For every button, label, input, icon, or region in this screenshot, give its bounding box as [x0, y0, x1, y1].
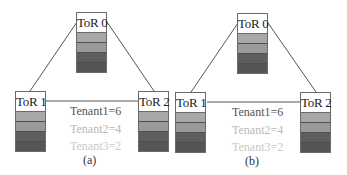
- tenant-stripe: [238, 44, 267, 54]
- tenant-stripe: [16, 132, 45, 142]
- tenant1-label: Tenant1=6: [232, 105, 283, 120]
- tenant-stripe: [176, 123, 205, 133]
- tenant-stripe: [301, 143, 330, 152]
- tenant-stripe: [16, 122, 45, 132]
- tenant-stripe: [301, 123, 330, 133]
- tenant-stripe: [238, 54, 267, 64]
- tenant-stripe: [176, 113, 205, 123]
- tenant-stripe: [176, 143, 205, 152]
- tenant2-label: Tenant2=4: [70, 122, 121, 137]
- panel-caption: (a): [83, 153, 96, 168]
- tor-label: ToR 1: [176, 93, 205, 113]
- tenant-stripe: [301, 133, 330, 143]
- tenant-stripe: [238, 64, 267, 73]
- tenant-stripe: [77, 63, 106, 72]
- tenant-stripe: [238, 34, 267, 44]
- tenant-stripe: [77, 43, 106, 53]
- diagram-panel-b: ToR 0 ToR 1 ToR 2 Tenant1=6 Tenant2=4 Te…: [160, 0, 347, 175]
- tenant-stripe: [77, 33, 106, 43]
- tor-0-switch: ToR 0: [237, 13, 268, 74]
- tenant-stripe: [77, 53, 106, 63]
- tor-2-switch: ToR 2: [300, 92, 331, 153]
- tenant3-label: Tenant3=2: [232, 140, 283, 155]
- tenant1-label: Tenant1=6: [70, 104, 121, 119]
- tenant-stripe: [176, 133, 205, 143]
- tor-1-switch: ToR 1: [15, 91, 46, 152]
- panel-caption: (b): [245, 154, 259, 169]
- tenant2-label: Tenant2=4: [232, 123, 283, 138]
- tor-label: ToR 1: [16, 92, 45, 112]
- diagram-panel-a: ToR 0 ToR 1 ToR 2 Tenant1=6 Tenant2=4 Te…: [0, 0, 173, 175]
- tor-label: ToR 0: [238, 14, 267, 34]
- tenant-stripe: [16, 142, 45, 151]
- tor-0-switch: ToR 0: [76, 12, 107, 73]
- tenant-stripe: [301, 113, 330, 123]
- tor-label: ToR 0: [77, 13, 106, 33]
- tor-label: ToR 2: [301, 93, 330, 113]
- tor-1-switch: ToR 1: [175, 92, 206, 153]
- tenant-stripe: [16, 112, 45, 122]
- tenant3-label: Tenant3=2: [70, 139, 121, 154]
